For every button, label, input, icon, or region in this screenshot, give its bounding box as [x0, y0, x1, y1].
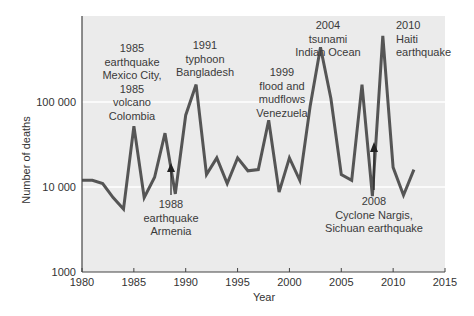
x-tick-label: 2000: [277, 276, 301, 288]
x-axis-title: Year: [253, 291, 276, 303]
disaster-deaths-chart: 19801985199019952000200520102015 100010 …: [0, 0, 474, 316]
x-tick-label: 2010: [381, 276, 405, 288]
x-tick-label: 2005: [329, 276, 353, 288]
x-tick-label: 1995: [225, 276, 249, 288]
y-axis-title: Number of deaths: [20, 116, 32, 204]
x-tick-label: 1985: [122, 276, 146, 288]
y-tick-label: 1000: [52, 266, 76, 278]
x-tick-label: 2015: [433, 276, 457, 288]
x-tick-label: 1990: [173, 276, 197, 288]
y-ticks: 100010 000100 000: [36, 96, 76, 278]
y-tick-label: 100 000: [36, 96, 76, 108]
y-tick-label: 10 000: [42, 181, 76, 193]
